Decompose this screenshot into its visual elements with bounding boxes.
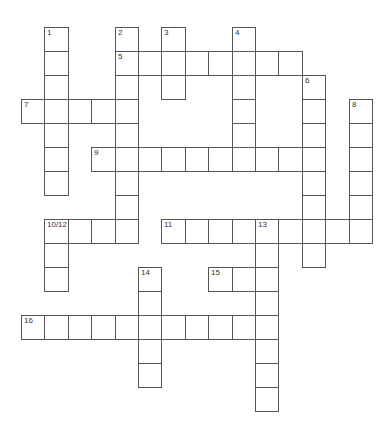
crossword-cell[interactable] <box>278 147 303 172</box>
crossword-cell[interactable] <box>91 315 116 340</box>
crossword-cell[interactable] <box>208 315 233 340</box>
crossword-cell[interactable] <box>68 99 92 124</box>
clue-number-label: 1 <box>47 29 51 37</box>
crossword-cell[interactable]: 15 <box>208 267 233 292</box>
crossword-cell[interactable] <box>349 219 373 244</box>
crossword-cell[interactable] <box>68 315 92 340</box>
crossword-cell[interactable] <box>44 147 69 172</box>
crossword-cell[interactable] <box>302 219 326 244</box>
crossword-cell[interactable] <box>161 315 186 340</box>
crossword-cell[interactable]: 8 <box>349 99 373 124</box>
crossword-cell[interactable] <box>44 123 69 148</box>
crossword-cell[interactable] <box>185 315 209 340</box>
crossword-cell[interactable]: 4 <box>232 27 256 52</box>
crossword-cell[interactable] <box>44 99 69 124</box>
crossword-cell[interactable]: 14 <box>138 267 162 292</box>
crossword-cell[interactable] <box>161 147 186 172</box>
crossword-cell[interactable] <box>115 171 139 196</box>
crossword-cell[interactable] <box>349 171 373 196</box>
crossword-cell[interactable] <box>302 243 326 268</box>
crossword-cell[interactable]: 10/12 <box>44 219 69 244</box>
crossword-cell[interactable] <box>115 219 139 244</box>
crossword-cell[interactable] <box>302 123 326 148</box>
clue-number-label: 7 <box>24 101 28 109</box>
crossword-cell[interactable] <box>255 51 279 76</box>
crossword-cell[interactable] <box>232 75 256 100</box>
crossword-cell[interactable]: 13 <box>255 219 279 244</box>
clue-number-label: 5 <box>118 53 122 61</box>
crossword-cell[interactable]: 5 <box>115 51 139 76</box>
crossword-cell[interactable] <box>232 219 256 244</box>
crossword-cell[interactable] <box>325 219 350 244</box>
crossword-cell[interactable] <box>44 171 69 196</box>
crossword-cell[interactable] <box>232 315 256 340</box>
crossword-cell[interactable] <box>138 363 162 388</box>
crossword-cell[interactable] <box>302 147 326 172</box>
crossword-cell[interactable] <box>138 291 162 316</box>
crossword-cell[interactable] <box>208 147 233 172</box>
crossword-cell[interactable] <box>255 243 279 268</box>
crossword-cell[interactable] <box>115 195 139 220</box>
crossword-cell[interactable] <box>44 75 69 100</box>
crossword-cell[interactable]: 3 <box>161 27 186 52</box>
crossword-cell[interactable] <box>208 51 233 76</box>
clue-number-label: 6 <box>305 77 309 85</box>
crossword-cell[interactable] <box>185 147 209 172</box>
crossword-cell[interactable] <box>278 51 303 76</box>
crossword-cell[interactable] <box>302 195 326 220</box>
crossword-cell[interactable]: 7 <box>21 99 45 124</box>
crossword-cell[interactable] <box>232 123 256 148</box>
crossword-cell[interactable] <box>185 51 209 76</box>
crossword-cell[interactable]: 11 <box>161 219 186 244</box>
crossword-cell[interactable] <box>232 99 256 124</box>
crossword-cell[interactable]: 6 <box>302 75 326 100</box>
crossword-cell[interactable] <box>44 51 69 76</box>
crossword-cell[interactable]: 1 <box>44 27 69 52</box>
crossword-cell[interactable] <box>208 219 233 244</box>
crossword-cell[interactable] <box>115 147 139 172</box>
crossword-cell[interactable] <box>255 315 279 340</box>
crossword-cell[interactable] <box>115 99 139 124</box>
crossword-cell[interactable] <box>138 51 162 76</box>
crossword-cell[interactable] <box>161 75 186 100</box>
crossword-grid: 12534678910/121113141516 <box>0 0 389 430</box>
crossword-cell[interactable] <box>278 219 303 244</box>
crossword-cell[interactable] <box>349 123 373 148</box>
crossword-cell[interactable] <box>349 147 373 172</box>
crossword-cell[interactable] <box>91 219 116 244</box>
crossword-cell[interactable] <box>44 315 69 340</box>
crossword-cell[interactable] <box>185 219 209 244</box>
crossword-cell[interactable] <box>115 315 139 340</box>
crossword-cell[interactable]: 2 <box>115 27 139 52</box>
crossword-cell[interactable]: 9 <box>91 147 116 172</box>
crossword-cell[interactable] <box>255 387 279 412</box>
crossword-cell[interactable] <box>161 51 186 76</box>
crossword-cell[interactable] <box>138 147 162 172</box>
crossword-cell[interactable] <box>232 51 256 76</box>
crossword-cell[interactable] <box>68 219 92 244</box>
clue-number-label: 9 <box>94 149 98 157</box>
crossword-cell[interactable] <box>302 99 326 124</box>
clue-number-label: 10/12 <box>47 221 67 229</box>
crossword-cell[interactable] <box>138 315 162 340</box>
crossword-cell[interactable] <box>255 339 279 364</box>
crossword-cell[interactable] <box>255 291 279 316</box>
crossword-cell[interactable] <box>44 243 69 268</box>
crossword-cell[interactable] <box>115 123 139 148</box>
crossword-cell[interactable] <box>232 267 256 292</box>
crossword-cell[interactable]: 16 <box>21 315 45 340</box>
crossword-cell[interactable] <box>255 267 279 292</box>
clue-number-label: 8 <box>352 101 356 109</box>
clue-number-label: 16 <box>24 317 33 325</box>
clue-number-label: 11 <box>164 221 172 229</box>
crossword-cell[interactable] <box>255 363 279 388</box>
crossword-cell[interactable] <box>255 147 279 172</box>
crossword-cell[interactable] <box>91 99 116 124</box>
crossword-cell[interactable] <box>115 75 139 100</box>
crossword-cell[interactable] <box>302 171 326 196</box>
crossword-cell[interactable] <box>44 267 69 292</box>
crossword-cell[interactable] <box>349 195 373 220</box>
crossword-cell[interactable] <box>138 339 162 364</box>
crossword-cell[interactable] <box>232 147 256 172</box>
clue-number-label: 4 <box>235 29 239 37</box>
